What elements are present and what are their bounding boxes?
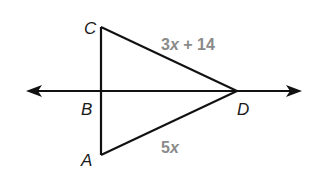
ad-variable: x	[169, 139, 180, 156]
line-bd	[26, 85, 302, 97]
geometry-diagram: C B A D 3x + 14 5x	[0, 0, 316, 176]
point-label-c: C	[84, 19, 97, 38]
point-label-a: A	[80, 151, 92, 170]
cd-coefficient: 3	[161, 36, 170, 53]
length-label-cd: 3x + 14	[161, 36, 215, 53]
point-label-b: B	[81, 100, 92, 119]
ad-coefficient: 5	[161, 139, 170, 156]
point-label-d: D	[237, 100, 249, 119]
length-label-ad: 5x	[161, 139, 180, 156]
cd-constant: + 14	[179, 36, 215, 53]
